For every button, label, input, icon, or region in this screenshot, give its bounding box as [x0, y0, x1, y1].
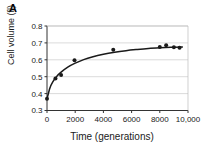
data-point — [59, 73, 63, 77]
data-point — [164, 43, 168, 47]
y-tick-label: 0.5 — [31, 73, 43, 82]
plot-frame — [47, 26, 188, 111]
x-tick-label: 10,000 — [176, 115, 201, 124]
x-tick-label: 0 — [45, 115, 50, 124]
data-point — [158, 45, 162, 49]
x-axis-title: Time (generations) — [34, 131, 190, 143]
y-tick-label: 0.7 — [31, 39, 43, 48]
data-point — [172, 45, 176, 49]
fit-curve — [47, 47, 182, 99]
data-point — [73, 58, 77, 62]
y-tick-label: 0.4 — [31, 90, 43, 99]
x-tick-label: 8000 — [151, 115, 169, 124]
x-tick-label: 2000 — [66, 115, 84, 124]
fit-curve-path — [47, 47, 182, 99]
x-tick-label: 6000 — [123, 115, 141, 124]
y-tick-label: 0.8 — [31, 22, 43, 31]
data-point — [45, 97, 49, 101]
gridlines — [47, 26, 188, 94]
x-tick-label: 4000 — [95, 115, 113, 124]
data-point — [178, 46, 182, 50]
data-point — [53, 76, 57, 80]
cell-volume-scatter-plot: 0.30.40.50.60.70.8 0200040006000800010,0… — [0, 0, 210, 152]
data-point — [111, 48, 115, 52]
y-axis-ticks: 0.30.40.50.60.70.8 — [31, 22, 47, 116]
y-tick-label: 0.3 — [31, 106, 43, 115]
y-tick-label: 0.6 — [31, 56, 43, 65]
figure-panel-a: A Cell volume (fl) 0.30.40.50.60.70.8 02… — [0, 0, 210, 152]
x-axis-ticks: 0200040006000800010,000 — [45, 111, 201, 124]
